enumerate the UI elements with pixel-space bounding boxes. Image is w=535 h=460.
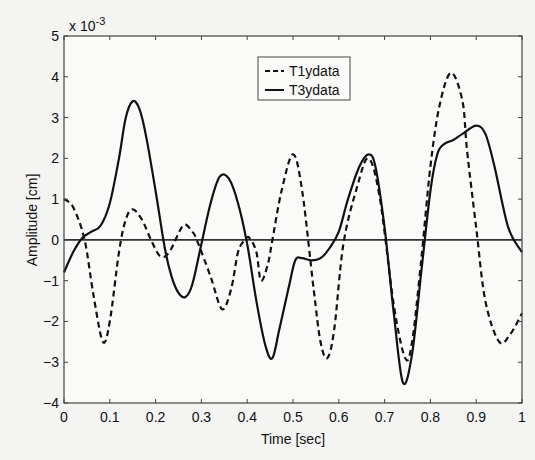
y-tick-label: −2 (43, 313, 59, 329)
y-tick-label: 1 (51, 191, 59, 207)
y-tick-label: −4 (43, 395, 59, 411)
y-tick-label: −1 (43, 273, 59, 289)
x-tick-labels: 00.10.20.30.40.50.60.70.80.91 (60, 409, 526, 425)
x-tick-label: 0.8 (421, 409, 441, 425)
y-tick-labels: −4−3−2−1012345 (43, 28, 59, 411)
y-scale-factor-exponent: -3 (95, 15, 105, 27)
y-tick-label: 0 (51, 232, 59, 248)
legend: T1ydata T3ydata (258, 57, 350, 100)
legend-label-t1ydata: T1ydata (289, 63, 340, 79)
x-tick-label: 0.1 (100, 409, 120, 425)
y-scale-factor-base: x 10 (69, 18, 96, 34)
legend-label-t3ydata: T3ydata (289, 82, 340, 98)
y-axis-label: Amplitude [cm] (24, 174, 40, 267)
x-tick-label: 0.6 (329, 409, 349, 425)
y-tick-label: 3 (51, 110, 59, 126)
x-tick-label: 0.2 (146, 409, 166, 425)
y-tick-label: 4 (51, 69, 59, 85)
y-tick-label: 5 (51, 28, 59, 44)
y-scale-factor: x 10-3 (69, 15, 105, 34)
x-tick-label: 0.4 (237, 409, 257, 425)
x-tick-label: 0 (60, 409, 68, 425)
x-tick-label: 0.3 (192, 409, 212, 425)
x-tick-label: 1 (518, 409, 526, 425)
x-axis-label: Time [sec] (261, 431, 325, 447)
line-chart: 00.10.20.30.40.50.60.70.80.91 −4−3−2−101… (0, 0, 535, 460)
y-tick-label: −3 (43, 354, 59, 370)
x-tick-label: 0.9 (466, 409, 486, 425)
x-tick-label: 0.7 (375, 409, 395, 425)
x-tick-label: 0.5 (283, 409, 303, 425)
y-tick-label: 2 (51, 150, 59, 166)
